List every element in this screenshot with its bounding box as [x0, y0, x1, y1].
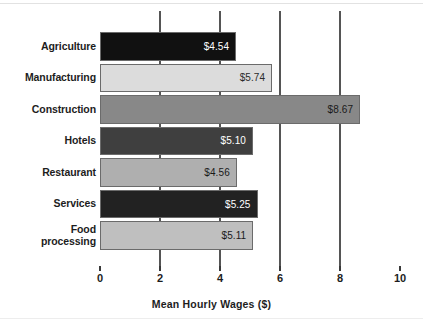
bar: $5.10 [100, 127, 253, 156]
bar-value-label: $5.25 [225, 199, 257, 210]
gridline-x-6 [279, 11, 280, 266]
bar-value-label: $5.74 [240, 72, 272, 83]
bar: $5.74 [100, 64, 272, 93]
category-axis-labels: AgricultureManufacturingConstructionHote… [0, 11, 96, 266]
x-tick-label: 4 [217, 272, 223, 284]
top-divider [0, 3, 423, 4]
x-axis-tick-labels: 0246810 [0, 272, 423, 288]
bar: $4.54 [100, 32, 236, 61]
gridline-x-8 [339, 11, 340, 266]
x-tick-0 [99, 266, 100, 271]
x-tick-label: 8 [337, 272, 343, 284]
bottom-divider [0, 318, 423, 319]
x-axis-title: Mean Hourly Wages ($) [0, 298, 423, 310]
category-label: Services [0, 198, 96, 210]
category-label: Hotels [0, 135, 96, 147]
bar: $4.56 [100, 158, 237, 187]
bar-value-label: $4.56 [204, 167, 236, 178]
x-tick-label: 2 [157, 272, 163, 284]
x-tick-label: 6 [277, 272, 283, 284]
x-tick-8 [339, 266, 340, 271]
x-tick-label: 10 [394, 272, 406, 284]
x-tick-2 [159, 266, 160, 271]
bar-chart-figure: AgricultureManufacturingConstructionHote… [0, 0, 423, 322]
x-tick-10 [399, 266, 400, 271]
bar-value-label: $5.11 [222, 230, 253, 241]
bar-value-label: $5.10 [220, 135, 252, 146]
bar: $5.11 [100, 221, 253, 250]
bar: $5.25 [100, 190, 258, 219]
category-label: Construction [0, 104, 96, 116]
x-tick-4 [219, 266, 220, 271]
bar: $8.67 [100, 95, 360, 124]
category-label: Manufacturing [0, 72, 96, 84]
x-tick-6 [279, 266, 280, 271]
category-label: Foodprocessing [0, 224, 96, 247]
category-label: Agriculture [0, 41, 96, 53]
bar-value-label: $4.54 [204, 41, 236, 52]
x-tick-label: 0 [97, 272, 103, 284]
category-label: Restaurant [0, 167, 96, 179]
bar-value-label: $8.67 [328, 104, 360, 115]
plot-area: $4.54$5.74$8.67$5.10$4.56$5.25$5.11 [100, 11, 400, 266]
